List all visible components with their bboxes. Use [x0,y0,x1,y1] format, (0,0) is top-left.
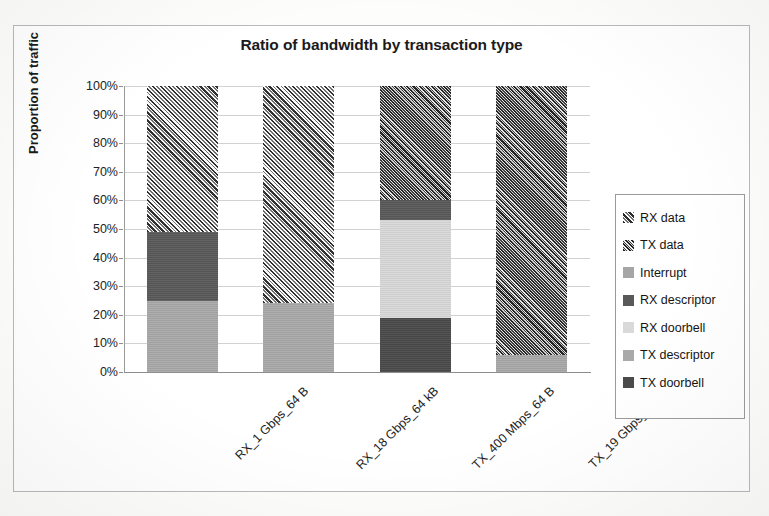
legend-label: TX descriptor [640,348,714,362]
interrupt-swatch [623,267,634,278]
bar-segment-rx-descriptor[interactable] [380,200,451,220]
bar-segment-rx-data[interactable] [147,86,218,232]
bar-segment-tx-doorbell[interactable] [380,318,451,372]
y-tick-label-20: 20% [93,308,118,322]
bar-1[interactable] [263,86,334,372]
rx-doorbell-swatch [623,322,634,333]
bar-3[interactable] [496,86,567,372]
bar-segment-tx-descriptor[interactable] [263,303,334,372]
x-tick-label-1: RX_18 Gbps_64 kB [353,384,441,472]
y-tick-label-10: 10% [93,336,118,350]
bar-0[interactable] [147,86,218,372]
x-tick-label-0: RX_1 Gbps_64 B [233,384,312,463]
bar-segment-rx-data[interactable] [263,86,334,303]
y-tick-mark-70 [119,172,123,173]
legend-label: RX descriptor [640,293,716,307]
y-tick-mark-60 [119,200,123,201]
rx-descriptor-swatch [623,295,634,306]
tx-data-swatch [623,240,634,251]
y-tick-label-80: 80% [93,136,118,150]
y-tick-mark-50 [119,229,123,230]
legend-item-rx-doorbell[interactable]: RX doorbell [623,314,738,342]
y-tick-label-0: 0% [100,365,118,379]
legend-label: RX doorbell [640,321,705,335]
bar-segment-tx-descriptor[interactable] [496,355,567,372]
rx-data-swatch [623,212,634,223]
legend-label: TX doorbell [640,376,704,390]
bar-segment-tx-descriptor[interactable] [147,301,218,373]
legend-item-interrupt[interactable]: Interrupt [623,259,738,287]
y-tick-mark-40 [119,258,123,259]
bar-segment-rx-descriptor[interactable] [147,232,218,301]
legend-item-tx-doorbell[interactable]: TX doorbell [623,369,738,397]
legend-item-tx-data[interactable]: TX data [623,232,738,260]
tx-descriptor-swatch [623,350,634,361]
y-tick-label-90: 90% [93,108,118,122]
y-tick-label-30: 30% [93,279,118,293]
y-tick-mark-0 [119,372,123,373]
x-axis-tick-labels: RX_1 Gbps_64 BRX_18 Gbps_64 kBTX_400 Mbp… [124,378,590,498]
bars-container [124,86,590,372]
chart-frame: Ratio of bandwidth by transaction type P… [13,25,750,492]
chart-title: Ratio of bandwidth by transaction type [14,36,749,54]
bar-segment-tx-data[interactable] [380,86,451,200]
legend-item-tx-descriptor[interactable]: TX descriptor [623,342,738,370]
legend-item-rx-descriptor[interactable]: RX descriptor [623,287,738,315]
bar-2[interactable] [380,86,451,372]
y-tick-label-60: 60% [93,193,118,207]
y-tick-label-50: 50% [93,222,118,236]
y-tick-mark-90 [119,115,123,116]
y-tick-mark-100 [119,86,123,87]
legend-label: Interrupt [640,266,687,280]
y-axis-title: Proportion of traffic [26,32,41,154]
bar-segment-tx-data[interactable] [496,86,567,355]
x-tick-label-2: TX_400 Mbps_64 B [470,384,558,472]
y-tick-mark-20 [119,315,123,316]
x-axis-line [124,372,591,373]
y-tick-mark-10 [119,343,123,344]
y-tick-mark-30 [119,286,123,287]
legend-label: TX data [640,238,684,252]
chart-legend: RX dataTX dataInterruptRX descriptorRX d… [615,194,745,419]
legend-label: RX data [640,211,685,225]
tx-doorbell-swatch [623,377,634,388]
bar-segment-rx-doorbell[interactable] [380,220,451,317]
chart-page: Ratio of bandwidth by transaction type P… [0,0,769,516]
y-tick-label-40: 40% [93,251,118,265]
y-tick-mark-80 [119,143,123,144]
legend-item-rx-data[interactable]: RX data [623,204,738,232]
y-axis-tick-labels: 100%90%80%70%60%50%40%30%20%10%0% [60,86,118,372]
y-tick-label-70: 70% [93,165,118,179]
y-tick-label-100: 100% [86,79,118,93]
